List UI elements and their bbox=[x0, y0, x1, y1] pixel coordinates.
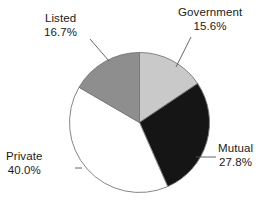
pie-chart: Government 15.6% Mutual 27.8% Private 40… bbox=[0, 0, 277, 203]
pie-label-private-name: Private bbox=[6, 150, 43, 164]
pie-label-mutual: Mutual 27.8% bbox=[218, 142, 253, 169]
pie-label-private: Private 40.0% bbox=[6, 150, 43, 177]
pie-label-government: Government 15.6% bbox=[178, 6, 242, 33]
pie-label-mutual-value: 27.8% bbox=[218, 156, 253, 170]
leader-line-listed bbox=[90, 39, 109, 61]
pie-label-private-value: 40.0% bbox=[6, 164, 43, 178]
pie-label-listed-value: 16.7% bbox=[44, 26, 77, 40]
pie-label-listed-name: Listed bbox=[44, 12, 77, 26]
pie-slices bbox=[70, 53, 210, 193]
pie-label-government-name: Government bbox=[178, 6, 242, 20]
pie-label-government-value: 15.6% bbox=[178, 20, 242, 34]
pie-label-mutual-name: Mutual bbox=[218, 142, 253, 156]
pie-label-listed: Listed 16.7% bbox=[44, 12, 77, 39]
leader-line-government bbox=[176, 37, 191, 67]
